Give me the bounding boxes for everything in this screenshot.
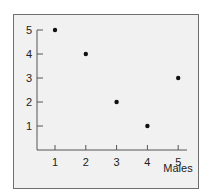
x-axis-ticks: 12345 [52, 145, 181, 168]
x-tick-label: 2 [83, 156, 89, 168]
y-tick-label: 5 [26, 24, 32, 36]
x-tick-label: 1 [52, 156, 58, 168]
data-point [84, 52, 88, 56]
data-point [53, 28, 57, 32]
y-tick-label: 2 [26, 96, 32, 108]
data-point [145, 124, 149, 128]
y-axis-ticks: 12345 [26, 24, 43, 132]
y-tick-label: 3 [26, 72, 32, 84]
x-axis-label: Males [163, 162, 193, 174]
y-tick-label: 4 [26, 48, 32, 60]
axes [37, 30, 187, 150]
y-tick-label: 1 [26, 120, 32, 132]
x-tick-label: 4 [144, 156, 150, 168]
data-point [176, 76, 180, 80]
data-points [53, 28, 181, 128]
data-point [114, 100, 118, 104]
x-tick-label: 3 [114, 156, 120, 168]
scatter-plot: 12345 12345 Males [0, 0, 209, 194]
